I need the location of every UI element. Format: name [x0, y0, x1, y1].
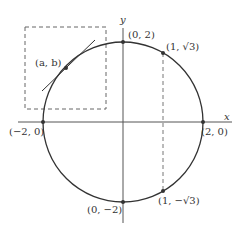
label-q4: (1, −√3)	[158, 195, 200, 206]
label-top: (0, 2)	[128, 29, 155, 40]
label-q1: (1, √3)	[166, 41, 199, 52]
point-q4	[161, 189, 165, 193]
point-ab	[64, 66, 68, 70]
point-q1	[161, 51, 165, 55]
label-right: (2, 0)	[201, 126, 228, 137]
point-top	[121, 40, 125, 44]
x-axis-label: x	[224, 111, 230, 122]
circle-diagram: y x (0, 2) (1, √3) (2, 0) (−2, 0) (0, −2…	[0, 0, 241, 231]
label-bottom: (0, −2)	[87, 204, 122, 215]
label-ab: (a, b)	[35, 57, 62, 68]
point-right	[201, 120, 205, 124]
label-left: (−2, 0)	[9, 126, 44, 137]
y-axis-label: y	[119, 14, 126, 25]
point-left	[41, 120, 45, 124]
